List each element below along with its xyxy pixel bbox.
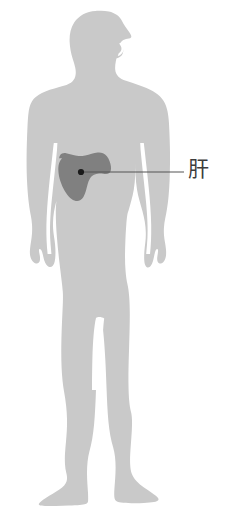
body-silhouette xyxy=(27,11,170,506)
liver-label: 肝 xyxy=(188,157,209,181)
anatomy-diagram: 肝 xyxy=(0,0,225,526)
body-silhouette-group xyxy=(27,11,170,507)
liver-marker-dot xyxy=(78,169,84,175)
feet-gap xyxy=(89,470,114,507)
anatomy-illustration xyxy=(0,0,225,526)
